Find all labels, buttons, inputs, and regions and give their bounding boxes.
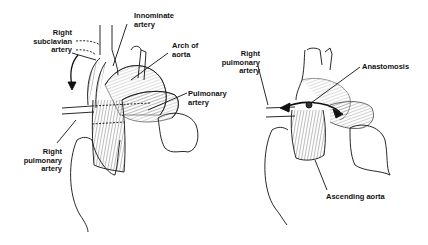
label-ascending-aorta: Ascending aorta — [326, 193, 385, 202]
label-line: artery — [188, 99, 227, 108]
label-innominate-artery: Innominate artery — [134, 12, 174, 29]
label-right-pulmonary-artery-right: Right pulmonary artery — [210, 50, 260, 76]
label-arch-of-aorta: Arch of aorta — [172, 42, 198, 59]
label-right-subclavian-artery: Right subclavian artery — [18, 29, 72, 55]
label-line: artery — [210, 67, 260, 76]
label-pulmonary-artery: Pulmonary artery — [188, 90, 227, 107]
label-line: artery — [12, 165, 62, 174]
label-line: artery — [134, 21, 174, 30]
label-line: aorta — [172, 51, 198, 60]
label-anastomosis: Anastomosis — [362, 63, 409, 72]
figure: Right subclavian artery Innominate arter… — [0, 0, 428, 245]
label-right-pulmonary-artery-left: Right pulmonary artery — [12, 148, 62, 174]
label-line: artery — [18, 46, 72, 55]
